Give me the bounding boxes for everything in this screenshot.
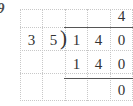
remainder-cell-2 xyxy=(42,79,65,102)
dividend-cell-ones: 0 xyxy=(110,29,133,52)
divisor-cell-ones: 5 xyxy=(42,29,65,52)
divisor-cell-tens: 3 xyxy=(20,29,43,52)
remainder-cell-5: 0 xyxy=(110,79,133,102)
remainder-cell-3 xyxy=(65,79,88,102)
quotient-cell-3 xyxy=(65,5,88,28)
quotient-cell-1 xyxy=(20,5,43,28)
division-vinculum xyxy=(64,27,133,28)
subtrahend-cell-4: 4 xyxy=(87,53,110,76)
remainder-cell-1 xyxy=(20,79,43,102)
quotient-cell-4 xyxy=(87,5,110,28)
quotient-cell-2 xyxy=(42,5,65,28)
problem-number: 9 xyxy=(0,1,5,16)
subtrahend-cell-3: 1 xyxy=(65,53,88,76)
subtrahend-cell-2 xyxy=(42,53,65,76)
subtrahend-cell-5: 0 xyxy=(110,53,133,76)
subtrahend-cell-1 xyxy=(20,53,43,76)
dividend-cell-tens: 4 xyxy=(87,29,110,52)
long-division-worksheet: 9 4 ) 3 5 1 4 0 1 4 0 0 xyxy=(0,0,133,106)
quotient-cell-5: 4 xyxy=(110,5,133,28)
dividend-cell-hundreds: 1 xyxy=(65,29,88,52)
remainder-cell-4 xyxy=(87,79,110,102)
